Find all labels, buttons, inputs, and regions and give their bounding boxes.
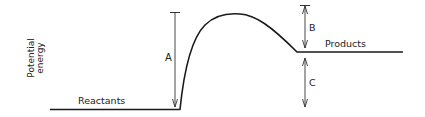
- reactants-label: Reactants: [78, 95, 125, 106]
- y-axis-label-line2: energy: [35, 42, 45, 74]
- arrow-a-label: A: [165, 52, 172, 63]
- arrow-b-label: B: [309, 22, 316, 33]
- energy-diagram: Potential energy Reactants Products A B …: [0, 0, 425, 117]
- arrow-c: [303, 58, 308, 107]
- arrow-c-label: C: [309, 77, 316, 88]
- products-label: Products: [325, 38, 366, 49]
